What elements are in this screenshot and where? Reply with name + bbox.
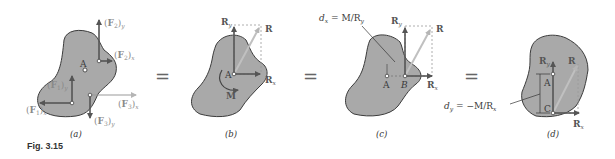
caption-a: (a) xyxy=(70,129,82,139)
point-c xyxy=(551,111,555,115)
ry-label: Ry xyxy=(391,16,402,28)
panel-c: dx = M/Ry Ry R Rx A B (c) xyxy=(319,13,444,139)
point-a xyxy=(551,72,555,76)
equals-sign: = xyxy=(303,65,318,86)
panel-d: Ry R Rx A C dy = −M/Rx (d) xyxy=(444,35,588,139)
caption-d: (d) xyxy=(547,129,559,139)
point-a-label: A xyxy=(382,80,390,90)
point-b xyxy=(403,74,407,78)
dy-equation: dy = −M/Rx xyxy=(444,101,497,113)
r-label: R xyxy=(436,24,444,34)
force-f3y-label: (F3)y xyxy=(94,116,115,128)
caption-c: (c) xyxy=(376,129,387,139)
moment-m-label: M xyxy=(226,91,236,101)
ry-label: Ry xyxy=(221,17,232,29)
dx-equation: dx = M/Ry xyxy=(319,13,364,25)
panel-a: A (F2)y (F2)x (F1)y (F1)x (F3)x (F3)y (a… xyxy=(26,18,139,139)
point-b-label: B xyxy=(400,80,408,90)
force-f2y-label: (F2)y xyxy=(104,18,125,30)
panel-b: Ry R Rx A M (b) xyxy=(192,17,277,139)
rx-label: Rx xyxy=(427,80,438,91)
point-a-label: A xyxy=(79,59,87,69)
point-a xyxy=(232,72,236,76)
rx-label: Rx xyxy=(573,119,584,130)
rx-label: Rx xyxy=(265,75,276,86)
force-f3x-label: (F3)x xyxy=(118,99,139,110)
equals-sign: = xyxy=(464,65,479,86)
force-f2x-label: (F2)x xyxy=(114,50,135,61)
figure-label: Fig. 3.15 xyxy=(27,141,63,151)
point-c-label: C xyxy=(544,104,551,114)
point-a xyxy=(385,74,389,78)
caption-b: (b) xyxy=(225,129,237,139)
statics-equivalence-diagram: A (F2)y (F2)x (F1)y (F1)x (F3)x (F3)y (a… xyxy=(0,0,615,159)
r-label: R xyxy=(568,56,576,66)
r-label: R xyxy=(265,24,273,34)
point-a-label: A xyxy=(224,70,232,80)
point-a-label: A xyxy=(543,78,551,88)
equals-sign: = xyxy=(155,65,170,86)
